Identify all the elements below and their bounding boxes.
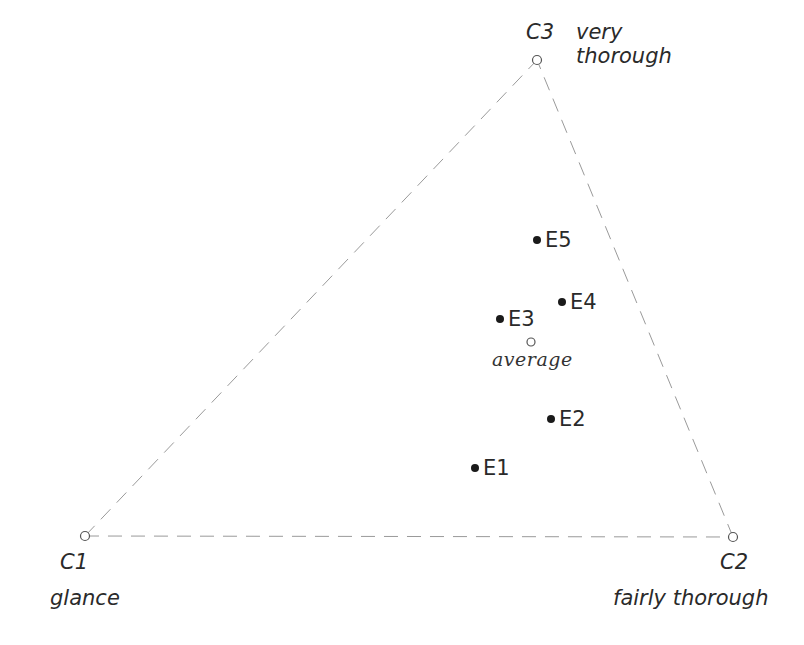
- vertex-c3-description-line2: thorough: [576, 44, 672, 68]
- point-e5-marker: [533, 236, 541, 244]
- vertex-c1-marker: [81, 532, 90, 541]
- vertex-c3-description-line1: very: [576, 20, 622, 44]
- point-e1-marker: [471, 464, 479, 472]
- edge-c1-c3: [85, 60, 537, 536]
- triangle-diagram: [0, 0, 804, 645]
- point-e4-marker: [558, 298, 566, 306]
- average-label: average: [492, 348, 573, 370]
- edge-c2-c3: [537, 60, 733, 537]
- point-e3-label: E3: [508, 307, 535, 331]
- vertex-c2-description: fairly thorough: [613, 586, 769, 610]
- point-e3-marker: [496, 315, 504, 323]
- point-e4-label: E4: [570, 290, 597, 314]
- point-e2-marker: [547, 415, 555, 423]
- vertex-c2-label: C2: [720, 550, 748, 574]
- edge-c1-c2: [85, 536, 733, 537]
- point-e5-label: E5: [545, 228, 572, 252]
- vertex-c2-marker: [729, 533, 738, 542]
- vertex-c1-label: C1: [60, 550, 88, 574]
- vertex-c3-marker: [533, 56, 542, 65]
- vertex-c1-description: glance: [50, 586, 120, 610]
- point-e2-label: E2: [559, 407, 586, 431]
- vertex-c3-label: C3: [526, 20, 554, 44]
- point-e1-label: E1: [483, 456, 510, 480]
- average-marker: [527, 338, 535, 346]
